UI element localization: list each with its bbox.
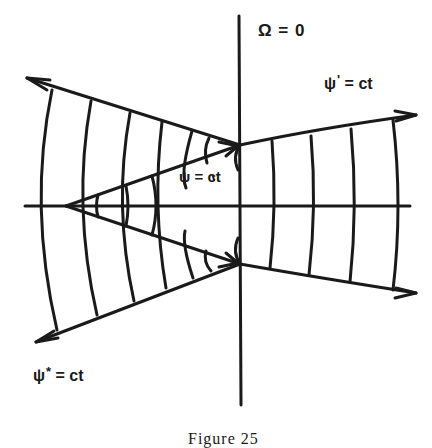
psi-prime-equation: = ct — [340, 75, 372, 92]
lower-left-ray — [36, 264, 240, 342]
omega-label: Ω = 0 — [258, 21, 305, 41]
upper-left-ray — [27, 78, 240, 145]
psi-star-symbol: ψ — [33, 367, 45, 384]
lower-left-arrowhead — [36, 331, 58, 342]
left-outer-arcs — [41, 90, 211, 330]
lower-right-arrowhead — [395, 288, 416, 298]
lower-right-ray — [240, 264, 416, 293]
psi-star-equation: = ct — [51, 367, 83, 384]
psi-prime-symbol: ψ — [324, 75, 336, 92]
vertical-axis — [239, 16, 241, 405]
psi-label: ψ = ct — [179, 168, 221, 185]
figure-caption: Figure 25 — [188, 430, 259, 448]
upper-right-ray — [240, 115, 416, 145]
psi-prime-label: ψ' = ct — [324, 72, 373, 93]
psi-star-label: ψ* = ct — [33, 364, 84, 385]
